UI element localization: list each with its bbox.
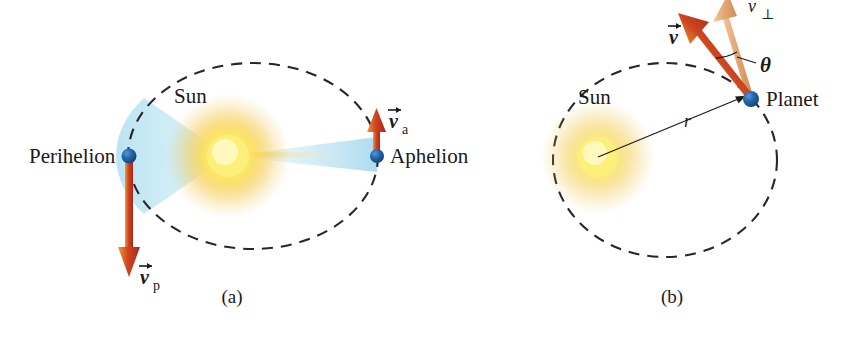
velocity-vector-b: [678, 13, 753, 100]
theta-label: θ: [760, 53, 771, 77]
vp-vector-label: v p: [139, 263, 160, 293]
figure-canvas: Sun Perihelion v p: [0, 0, 859, 342]
va-arrowhead: [367, 108, 386, 132]
v-vector-label: v: [668, 23, 681, 48]
vp-shaft: [125, 157, 133, 253]
vperp-arrowhead: [713, 0, 737, 22]
vperp-subscript: ⊥: [761, 7, 774, 22]
panel-b-caption: (b): [661, 286, 683, 308]
vperp-vector-label: v ⊥: [748, 0, 774, 22]
sun-core-highlight-a: [212, 139, 238, 165]
sun-label-a: Sun: [174, 84, 207, 108]
radius-label: r: [684, 111, 692, 131]
perihelion-dot: [122, 149, 137, 164]
va-vector-label: v a: [388, 107, 409, 137]
aphelion-dot: [370, 149, 384, 163]
panel-a: Sun Perihelion v p: [29, 63, 469, 308]
panel-a-caption: (a): [221, 286, 242, 308]
vperp-symbol: v: [748, 0, 756, 16]
vp-subscript: p: [153, 278, 160, 293]
v-shaft: [695, 29, 753, 100]
v-symbol: v: [669, 26, 679, 48]
sun-core-highlight-b: [583, 141, 607, 165]
perihelion-label: Perihelion: [29, 144, 116, 168]
aphelion-label: Aphelion: [390, 144, 469, 168]
planet-dot: [743, 91, 759, 107]
sun-label-b: Sun: [578, 85, 611, 109]
va-subscript: a: [402, 122, 409, 137]
panel-b: Sun r θ v: [541, 0, 819, 308]
kepler-second-law-figure: Sun Perihelion v p: [0, 0, 859, 342]
va-symbol: v: [389, 110, 399, 132]
vp-symbol: v: [140, 266, 150, 288]
planet-label: Planet: [766, 87, 819, 111]
vp-arrowhead: [118, 247, 140, 277]
